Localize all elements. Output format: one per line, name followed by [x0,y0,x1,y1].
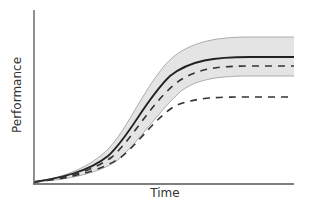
performance-chart [0,0,310,208]
confidence-band [34,37,294,182]
dashed-lower-line [34,97,294,182]
y-axis-label: Performance [10,50,24,140]
x-axis-label: Time [130,186,200,200]
